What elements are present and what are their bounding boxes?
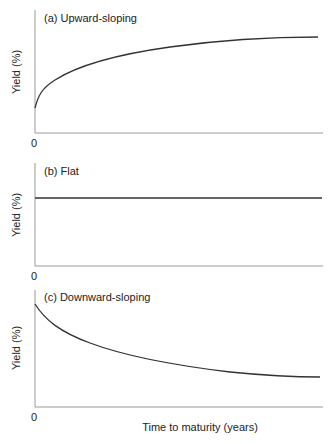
y-axis-label: Yield (%) [10, 326, 22, 370]
origin-tick-label: 0 [31, 411, 37, 423]
yield-curves-figure: (a) Upward-sloping Yield (%) 0 (b) Flat … [0, 0, 330, 444]
yield-curve-upward [35, 37, 318, 108]
x-axis-label: Time to maturity (years) [142, 421, 258, 433]
panel-title: (a) Upward-sloping [44, 12, 137, 24]
yield-curve-downward [35, 304, 320, 377]
y-axis-label: Yield (%) [10, 50, 22, 94]
y-axis-label: Yield (%) [10, 193, 22, 237]
panel-title: (b) Flat [44, 165, 79, 177]
origin-tick-label: 0 [31, 270, 37, 282]
panel-downward-sloping: (c) Downward-sloping Yield (%) 0 Time to… [10, 290, 323, 433]
panel-flat: (b) Flat Yield (%) 0 [10, 163, 323, 282]
origin-tick-label: 0 [31, 137, 37, 149]
panel-title: (c) Downward-sloping [44, 291, 150, 303]
panel-upward-sloping: (a) Upward-sloping Yield (%) 0 [10, 10, 323, 149]
